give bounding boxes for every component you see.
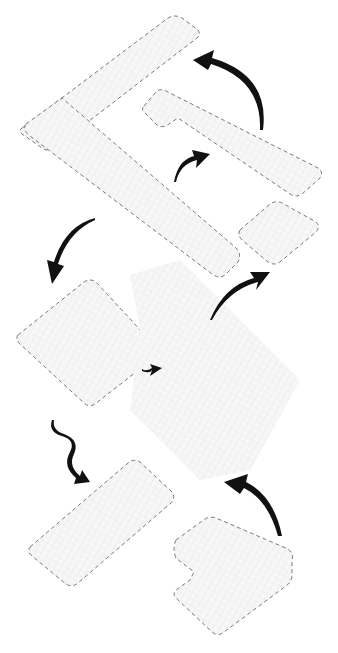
zone-small-tile-right	[239, 202, 319, 264]
zone-hook-band	[143, 90, 322, 196]
exploded-axonometric-diagram	[0, 0, 338, 653]
arrow-left-down	[47, 218, 95, 284]
arrow-mid-to-hook	[174, 150, 210, 182]
arrow-squiggle-down	[51, 420, 90, 484]
zone-lower-left-strip	[29, 460, 174, 586]
zone-lower-right-notched	[174, 517, 293, 634]
diagram-canvas	[0, 0, 338, 653]
